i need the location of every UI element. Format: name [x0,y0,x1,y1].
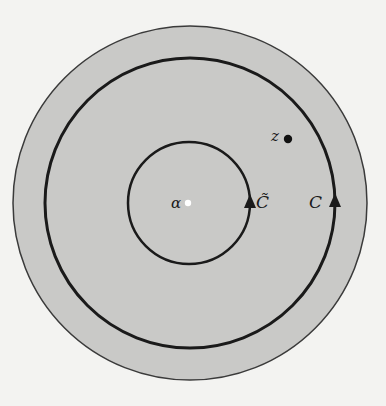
label-c-tilde: C̃ [256,194,269,211]
label-alpha: α [171,196,181,211]
label-c: C [309,194,322,211]
point-alpha [185,200,191,206]
label-z: z [271,129,279,144]
diagram-canvas [0,0,386,406]
point-z [284,135,292,143]
contour-diagram: z α C̃ C [0,0,386,406]
